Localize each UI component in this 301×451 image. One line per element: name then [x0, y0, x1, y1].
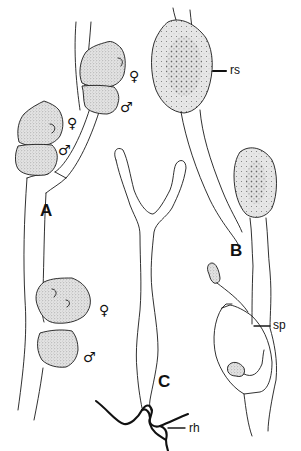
- female-symbol: ♀: [67, 116, 77, 130]
- panel-label-b: B: [230, 242, 242, 259]
- male-symbol: ♂: [83, 350, 96, 364]
- panel-a-drawing: [15, 22, 125, 420]
- male-symbol: ♂: [120, 100, 133, 114]
- panel-label-c: C: [158, 373, 170, 390]
- female-symbol: ♀: [99, 303, 109, 317]
- annotation-rs: rs: [230, 64, 240, 76]
- male-symbol: ♂: [58, 143, 71, 157]
- panel-c-drawing: [96, 148, 188, 451]
- panel-label-a: A: [40, 202, 52, 219]
- panel-b-drawing: [152, 8, 277, 436]
- annotation-sp: sp: [273, 319, 286, 331]
- botanical-plate: [0, 0, 301, 451]
- annotation-rh: rh: [189, 422, 200, 434]
- female-symbol: ♀: [129, 69, 139, 83]
